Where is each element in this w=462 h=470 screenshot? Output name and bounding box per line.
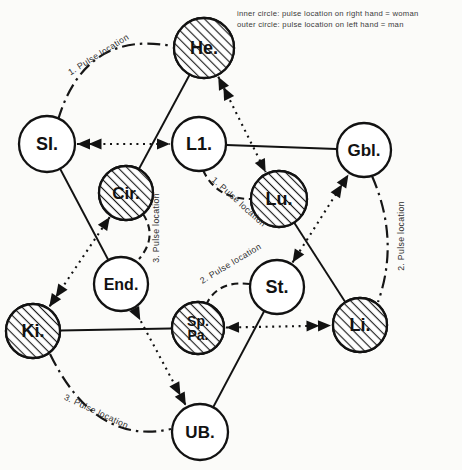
node-label: L1. — [186, 134, 212, 154]
pulse-diagram: He.SI.L1.Gbl.Cir.Lu.End.St.Sp.Pa.Ki.Li.U… — [0, 0, 462, 470]
node-label: Cir. — [112, 184, 139, 203]
node-Ki: Ki. — [6, 304, 60, 358]
node-SpPa: Sp.Pa. — [172, 302, 224, 354]
arrow-at-He — [213, 74, 234, 101]
node-Gbl: Gbl. — [337, 123, 391, 177]
node-label: UB. — [185, 423, 214, 442]
node-St: St. — [250, 260, 304, 314]
node-label: Ki. — [21, 321, 44, 341]
arrowhead-icon — [157, 138, 170, 149]
node-label: Lu. — [266, 189, 293, 209]
arrow-at-UB — [169, 381, 190, 408]
pulse-label-3: 3. Pulse location — [151, 193, 161, 263]
node-Li: Li. — [333, 298, 387, 352]
curve-labels: 1. Pulse location1. Pulse location3. Pul… — [63, 32, 406, 431]
node-He: He. — [174, 18, 234, 78]
pulse-arc-Gbl-Li — [372, 176, 388, 302]
node-End: End. — [94, 257, 148, 311]
organ-nodes: He.SI.L1.Gbl.Cir.Lu.End.St.Sp.Pa.Ki.Li.U… — [6, 18, 391, 460]
pulse-location-figure: He.SI.L1.Gbl.Cir.Lu.End.St.Sp.Pa.Ki.Li.U… — [0, 0, 462, 470]
arrow-at-Li — [306, 320, 331, 332]
arrow-at-Gbl — [331, 171, 354, 198]
arrowhead-icon — [226, 322, 239, 333]
arrow-at-SI — [77, 138, 102, 149]
pulse-label-6: 3. Pulse location — [63, 392, 130, 431]
pulse-arcs — [50, 44, 388, 432]
arrowhead-icon — [77, 138, 90, 149]
legend: inner circle: pulse location on right ha… — [237, 8, 419, 31]
arrowhead-icon — [306, 320, 319, 331]
node-label: St. — [265, 277, 288, 297]
pulse-label-5: 2. Pulse location — [396, 201, 406, 271]
node-label: He. — [190, 38, 218, 58]
arrow-at-SpPa — [226, 322, 239, 333]
node-label: Pa. — [187, 327, 208, 343]
node-L1: L1. — [172, 117, 226, 171]
arrow-at-Ki — [45, 284, 68, 311]
organ-edges — [33, 48, 364, 432]
pulse-label-1: 1. Pulse location — [66, 32, 130, 77]
pulse-arc-SI-He — [58, 44, 172, 120]
node-label: Li. — [350, 315, 371, 335]
node-label: SI. — [36, 134, 58, 154]
arrowhead-icon — [89, 138, 102, 149]
arrow-at-L1 — [157, 138, 170, 149]
pulse-arc-Cir-End — [139, 214, 150, 259]
legend-outer-circle: outer circle: pulse location on left han… — [237, 19, 419, 30]
arrowhead-icon — [318, 320, 331, 331]
pulse-arc-St-SpPa — [207, 283, 250, 303]
node-SI: SI. — [19, 116, 75, 172]
node-Cir: Cir. — [99, 166, 153, 220]
node-label: Gbl. — [347, 141, 380, 160]
node-UB: UB. — [172, 404, 228, 460]
legend-inner-circle: inner circle: pulse location on right ha… — [237, 8, 419, 19]
node-label: End. — [104, 276, 139, 293]
